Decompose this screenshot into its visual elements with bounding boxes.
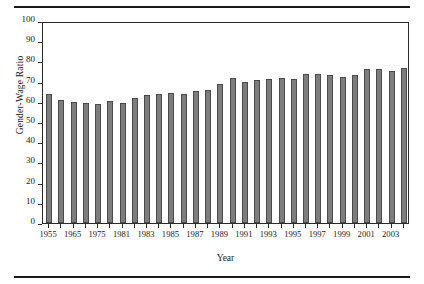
bar [58, 100, 64, 223]
bar [401, 68, 407, 223]
bar [279, 78, 285, 223]
y-tick-label: 60 [26, 96, 35, 105]
x-tick-label: 1985 [157, 230, 183, 239]
y-tick-label: 80 [26, 55, 35, 64]
x-tick-label: 2003 [378, 230, 404, 239]
x-tick-mark [354, 224, 355, 228]
x-tick-mark [207, 224, 208, 228]
x-tick-label: 1965 [60, 230, 86, 239]
x-tick-mark [305, 224, 306, 228]
plot-area [42, 22, 409, 224]
y-tick-label: 30 [26, 156, 35, 165]
bar [205, 90, 211, 223]
x-tick-mark [378, 224, 379, 228]
top-horizontal-rule [14, 6, 410, 8]
bar [376, 69, 382, 223]
x-tick-mark [293, 224, 294, 228]
bar [327, 75, 333, 223]
x-tick-mark [97, 224, 98, 228]
x-tick-label: 1997 [304, 230, 330, 239]
y-tick-label: 50 [26, 116, 35, 125]
y-tick-label: 90 [26, 35, 35, 44]
bar [340, 77, 346, 223]
x-tick-mark [195, 224, 196, 228]
bar [230, 78, 236, 223]
x-tick-label: 2001 [353, 230, 379, 239]
x-tick-mark [60, 224, 61, 228]
bar [193, 91, 199, 223]
x-axis-title: Year [42, 253, 409, 263]
figure: 0102030405060708090100 Gender-Wage Ratio… [0, 0, 424, 284]
x-tick-mark [219, 224, 220, 228]
y-tick-label: 20 [26, 177, 35, 186]
x-tick-mark [146, 224, 147, 228]
x-tick-label: 1983 [133, 230, 159, 239]
x-tick-label: 1981 [109, 230, 135, 239]
bar [266, 79, 272, 223]
y-tick-label: 40 [26, 136, 35, 145]
x-tick-mark [391, 224, 392, 228]
x-tick-label: 1995 [280, 230, 306, 239]
bar [242, 82, 248, 223]
y-tick-label: 0 [31, 217, 36, 226]
bar [132, 98, 138, 223]
x-tick-label: 1975 [84, 230, 110, 239]
y-tick-label: 10 [26, 197, 35, 206]
bar [254, 80, 260, 223]
bar [71, 102, 77, 223]
bar [107, 101, 113, 223]
x-tick-label: 1955 [35, 230, 61, 239]
x-tick-mark [281, 224, 282, 228]
bar [46, 94, 52, 223]
x-tick-mark [403, 224, 404, 228]
bar [83, 103, 89, 223]
x-tick-mark [232, 224, 233, 228]
bar [352, 75, 358, 223]
x-tick-mark [134, 224, 135, 228]
y-tick-label: 70 [26, 76, 35, 85]
x-tick-mark [122, 224, 123, 228]
y-axis-title: Gender-Wage Ratio [15, 20, 25, 170]
x-tick-mark [85, 224, 86, 228]
bar [144, 95, 150, 223]
x-tick-mark [170, 224, 171, 228]
bar [303, 74, 309, 223]
bar [291, 79, 297, 223]
bar [389, 71, 395, 224]
bar [156, 94, 162, 223]
x-tick-label: 1991 [231, 230, 257, 239]
bar [181, 94, 187, 223]
x-tick-mark [183, 224, 184, 228]
x-axis: 1955196519751981198319851987198919911993… [42, 224, 409, 254]
bar [95, 104, 101, 223]
x-tick-mark [158, 224, 159, 228]
x-tick-mark [342, 224, 343, 228]
bar [168, 93, 174, 223]
bottom-horizontal-rule [14, 276, 410, 278]
bar-series [43, 23, 408, 223]
x-tick-mark [73, 224, 74, 228]
x-tick-mark [244, 224, 245, 228]
x-tick-label: 1999 [329, 230, 355, 239]
x-tick-label: 1989 [206, 230, 232, 239]
x-tick-mark [48, 224, 49, 228]
bar [364, 69, 370, 223]
x-tick-mark [268, 224, 269, 228]
bar [120, 103, 126, 223]
x-tick-mark [329, 224, 330, 228]
bar [315, 74, 321, 223]
x-tick-mark [366, 224, 367, 228]
x-tick-mark [109, 224, 110, 228]
bar [217, 84, 223, 223]
x-tick-label: 1987 [182, 230, 208, 239]
x-tick-label: 1993 [255, 230, 281, 239]
x-tick-mark [317, 224, 318, 228]
x-tick-mark [256, 224, 257, 228]
